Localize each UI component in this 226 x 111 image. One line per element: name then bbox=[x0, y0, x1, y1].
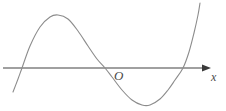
graph-canvas bbox=[0, 0, 226, 111]
cubic-curve-path bbox=[13, 3, 200, 106]
curve-group bbox=[13, 3, 200, 106]
graph-figure: O x bbox=[0, 0, 226, 111]
x-axis-arrow-icon bbox=[202, 65, 211, 72]
x-axis-label: x bbox=[211, 71, 216, 83]
origin-label: O bbox=[114, 69, 123, 82]
